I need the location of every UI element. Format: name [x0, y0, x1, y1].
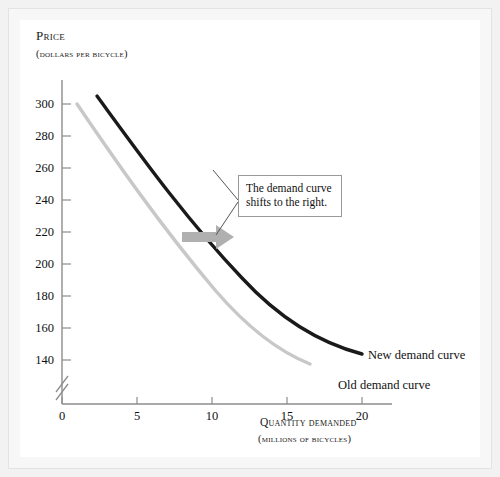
- y-tick-label: 160: [20, 321, 54, 336]
- x-tick-label: 0: [50, 409, 74, 424]
- annotation-callout-text: The demand curve shifts to the right.: [246, 181, 334, 210]
- y-tick-label: 200: [20, 257, 54, 272]
- annotation-leader-line: [213, 170, 238, 200]
- y-tick-label: 140: [20, 353, 54, 368]
- y-tick-label: 180: [20, 289, 54, 304]
- y-tick-label: 220: [20, 225, 54, 240]
- x-tick-label: 5: [125, 409, 149, 424]
- annotation-leader-line-lower: [216, 202, 238, 235]
- chart-panel: Price (dollars per bicycle) Quantity dem…: [20, 20, 480, 457]
- y-tick-label: 280: [20, 129, 54, 144]
- y-tick-label: 300: [20, 97, 54, 112]
- x-tick-label: 20: [350, 409, 374, 424]
- shift-arrow: [182, 225, 234, 249]
- series-new-demand-curve: [97, 96, 362, 354]
- x-tick-marks: [62, 397, 362, 404]
- y-tick-marks: [62, 104, 71, 360]
- y-tick-label: 240: [20, 193, 54, 208]
- series-label-new-demand-curve: New demand curve: [368, 348, 465, 363]
- x-tick-label: 10: [200, 409, 224, 424]
- y-tick-label: 260: [20, 161, 54, 176]
- x-tick-label: 15: [275, 409, 299, 424]
- annotation-callout-box: The demand curve shifts to the right.: [238, 175, 342, 217]
- series-label-old-demand-curve: Old demand curve: [338, 378, 430, 393]
- figure-root: Price (dollars per bicycle) Quantity dem…: [0, 0, 500, 477]
